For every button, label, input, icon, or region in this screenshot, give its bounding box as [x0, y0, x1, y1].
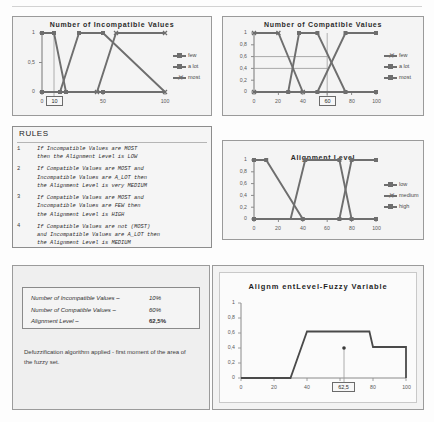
defuzzification-note: Defuzzification algorithm applied - firs… — [24, 348, 194, 368]
xaxis-label-compatible-80: 80 — [346, 98, 358, 104]
xaxis-label-alignment-20: 20 — [272, 225, 284, 231]
xaxis-label-compatible-0: 0 — [248, 98, 260, 104]
rule-text: If Compatible Values are MOST and Incomp… — [37, 194, 144, 219]
legend-marker-most-icon: ✕ — [173, 74, 186, 81]
rule-number: 2 — [17, 165, 37, 190]
rule-text: If Incompatible Values are MOST then the… — [37, 145, 137, 162]
legend-item-a-lot[interactable]: a lot — [384, 61, 411, 72]
selected-value-compatible[interactable]: 60 — [319, 96, 336, 106]
xaxis-label-alignment-80: 80 — [346, 225, 358, 231]
legend-label-most: most — [188, 74, 200, 80]
legend-item-most[interactable]: ✕ most — [173, 72, 200, 83]
chart-alignment-level[interactable]: Alignment Level — [222, 140, 424, 240]
yaxis-label-compatible-0: 0 — [231, 88, 247, 94]
page-root: Number of Incompatible Values — [0, 0, 434, 422]
legend-marker-few-icon: ✕ — [384, 52, 397, 59]
yaxis-label-compatible-04: 0,4 — [227, 65, 247, 71]
rule-number: 4 — [17, 223, 37, 248]
result-row-alignment: Alignment Level – 62,5% — [31, 316, 191, 328]
yaxis-label-fuzzy-0: 0 — [220, 374, 235, 380]
xaxis-label-alignment-100: 100 — [369, 225, 384, 231]
rule-item: 2 If Compatible Values are MOST and Inco… — [17, 165, 207, 190]
result-label-compatible: Number of Compatible Values – — [31, 305, 149, 317]
rules-heading: RULES — [19, 129, 49, 138]
legend-item-few[interactable]: few — [173, 50, 200, 61]
xaxis-label-compatible-20: 20 — [272, 98, 284, 104]
yaxis-label-compatible-06: 0,6 — [227, 53, 247, 59]
result-value-alignment: 62,5% — [149, 316, 166, 328]
chart-number-of-incompatible-values[interactable]: Number of Incompatible Values — [12, 16, 212, 116]
fuzzy-variable-panel[interactable]: Alignm entLevel-Fuzzy Variable — [212, 265, 424, 410]
legend-label-a-lot: a lot — [399, 63, 409, 69]
xaxis-label-alignment-40: 40 — [297, 225, 309, 231]
yaxis-label-fuzzy-02: 0,2 — [220, 359, 235, 365]
legend-label-few: few — [188, 52, 197, 58]
legend-label-a-lot: a lot — [188, 63, 198, 69]
yaxis-label-incompatible-0: 0 — [19, 88, 35, 94]
result-value-compatible: 60% — [149, 305, 161, 317]
yaxis-label-compatible-02: 0,2 — [227, 77, 247, 83]
chart-number-of-compatible-values[interactable]: Number of Compatible Values — [222, 16, 424, 116]
result-value-incompatible: 10% — [149, 293, 161, 305]
yaxis-label-fuzzy-06: 0,6 — [220, 329, 235, 335]
legend-item-most[interactable]: most — [384, 72, 411, 83]
legend-marker-few-icon — [173, 52, 186, 59]
result-row-compatible: Number of Compatible Values – 60% — [31, 305, 191, 317]
legend-item-high[interactable]: high — [384, 201, 419, 212]
legend-marker-medium-icon: ✕ — [384, 192, 397, 199]
rules-panel: RULES 1 If Incompatible Values are MOST … — [12, 126, 212, 248]
legend-marker-low-icon — [384, 181, 397, 188]
yaxis-label-alignment-06: 0,6 — [227, 180, 247, 186]
xaxis-label-fuzzy-20: 20 — [268, 384, 280, 390]
yaxis-label-compatible-1: 1 — [231, 29, 247, 35]
results-panel: Number of Incompatible Values – 10% Numb… — [12, 265, 210, 410]
yaxis-label-incompatible-05: 0,5 — [15, 59, 35, 65]
xaxis-label-fuzzy-40: 40 — [301, 384, 313, 390]
yaxis-label-alignment-04: 0,4 — [227, 192, 247, 198]
rule-item: 1 If Incompatible Values are MOST then t… — [17, 145, 207, 162]
fuzzy-chart-frame: Alignm entLevel-Fuzzy Variable — [219, 272, 417, 403]
yaxis-label-alignment-1: 1 — [231, 156, 247, 162]
xaxis-label-alignment-0: 0 — [248, 225, 260, 231]
xaxis-label-alignment-60: 60 — [321, 225, 333, 231]
rule-item: 3 If Compatible Values are MOST and Inco… — [17, 194, 207, 219]
legend-compatible: ✕ few a lot most — [384, 50, 411, 83]
yaxis-label-alignment-02: 0,2 — [227, 204, 247, 210]
top-divider — [12, 6, 422, 7]
legend-marker-most-icon — [384, 74, 397, 81]
legend-label-most: most — [399, 74, 411, 80]
legend-label-high: high — [399, 203, 409, 209]
xaxis-label-fuzzy-80: 80 — [367, 384, 379, 390]
yaxis-label-fuzzy-1: 1 — [220, 299, 235, 305]
legend-alignment: low ✕ medium high — [384, 179, 419, 212]
legend-item-a-lot[interactable]: a lot — [173, 61, 200, 72]
xaxis-label-compatible-100: 100 — [369, 98, 384, 104]
xaxis-label-incompatible-50: 50 — [96, 98, 110, 104]
selected-value-incompatible[interactable]: 10 — [46, 96, 63, 106]
legend-item-few[interactable]: ✕ few — [384, 50, 411, 61]
rule-text: If Compatible Values are not (MOST) and … — [37, 223, 160, 248]
legend-item-medium[interactable]: ✕ medium — [384, 190, 419, 201]
result-label-incompatible: Number of Incompatible Values – — [31, 293, 149, 305]
yaxis-label-incompatible-1: 1 — [19, 29, 35, 35]
yaxis-label-alignment-08: 0,8 — [227, 168, 247, 174]
result-label-alignment: Alignment Level – — [31, 316, 149, 328]
yaxis-label-compatible-08: 0,8 — [227, 41, 247, 47]
xaxis-label-incompatible-100: 100 — [157, 98, 173, 104]
yaxis-label-alignment-0: 0 — [231, 215, 247, 221]
legend-label-low: low — [399, 181, 407, 187]
legend-marker-a-lot-icon — [173, 63, 186, 70]
plot-area-fuzzy — [220, 273, 420, 406]
legend-marker-a-lot-icon — [384, 63, 397, 70]
xaxis-label-fuzzy-0: 0 — [235, 384, 247, 390]
xaxis-label-fuzzy-100: 100 — [399, 384, 414, 390]
rule-text: If Compatible Values are MOST and Incomp… — [37, 165, 147, 190]
legend-label-few: few — [399, 52, 408, 58]
rules-divider — [17, 142, 207, 143]
results-values-box: Number of Incompatible Values – 10% Numb… — [22, 287, 200, 329]
rule-item: 4 If Compatible Values are not (MOST) an… — [17, 223, 207, 248]
legend-item-low[interactable]: low — [384, 179, 419, 190]
rule-number: 3 — [17, 194, 37, 219]
defuzzified-value-box[interactable]: 62,5 — [332, 382, 355, 392]
yaxis-label-fuzzy-08: 0,8 — [220, 314, 235, 320]
